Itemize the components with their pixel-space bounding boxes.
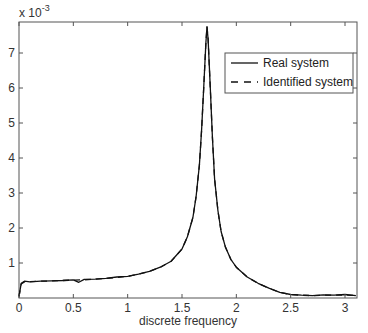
y-tick-label: 6 (8, 81, 15, 95)
y-tick-label: 3 (8, 186, 15, 200)
chart-canvas: 00.511.522.531234567 x 10-3 discrete fre… (0, 0, 368, 333)
y-tick-label: 7 (8, 46, 15, 60)
y-tick-label: 1 (8, 256, 15, 270)
legend-item-identified-system: Identified system (263, 75, 353, 89)
x-tick-label: 1.5 (174, 301, 191, 315)
legend-item-real-system: Real system (263, 56, 329, 70)
y-exponent-label: x 10-3 (19, 3, 50, 20)
x-tick-label: 2 (233, 301, 240, 315)
y-exponent-base: x 10 (19, 6, 42, 20)
x-tick-label: 2.5 (282, 301, 299, 315)
x-tick-label: 3 (342, 301, 349, 315)
y-tick-label: 2 (8, 221, 15, 235)
y-exponent-power: -3 (42, 3, 50, 13)
x-tick-label: 0.5 (65, 301, 82, 315)
y-tick-label: 5 (8, 116, 15, 130)
y-tick-label: 4 (8, 151, 15, 165)
x-tick-label: 0 (16, 301, 23, 315)
x-tick-label: 1 (124, 301, 131, 315)
x-axis-label: discrete frequency (139, 314, 237, 328)
legend: Real system Identified system (225, 53, 353, 93)
